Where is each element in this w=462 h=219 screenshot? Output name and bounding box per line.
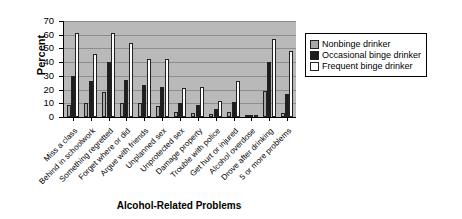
x-tick-mark xyxy=(73,117,74,121)
bar-group xyxy=(278,21,296,117)
bar xyxy=(227,112,231,117)
bar-group xyxy=(189,21,207,117)
y-tick-label: 70 xyxy=(43,17,54,25)
x-tick-mark xyxy=(126,117,127,121)
bar xyxy=(120,103,124,117)
bar xyxy=(107,62,111,117)
bar xyxy=(147,59,151,117)
bar xyxy=(236,81,240,117)
legend-label: Frequent binge drinker xyxy=(322,61,413,71)
bar-group xyxy=(100,21,118,117)
x-tick-mark xyxy=(91,117,92,121)
plot-area xyxy=(63,21,296,118)
bar xyxy=(111,33,115,117)
bar-group xyxy=(225,21,243,117)
y-tick-label: 50 xyxy=(43,44,54,52)
bar xyxy=(75,33,79,117)
legend-swatch-icon xyxy=(310,51,319,60)
bar xyxy=(209,114,213,117)
bar-group xyxy=(135,21,153,117)
bar-group xyxy=(242,21,260,117)
bar-group xyxy=(207,21,225,117)
bar xyxy=(174,112,178,117)
y-tick-label: 20 xyxy=(43,86,54,94)
bar xyxy=(67,105,71,117)
y-tick-label: 40 xyxy=(43,58,54,66)
legend-item: Nonbinge drinker xyxy=(310,39,421,49)
y-tick-label: 60 xyxy=(43,31,54,39)
bar xyxy=(272,39,276,117)
legend: Nonbinge drinkerOccasional binge drinker… xyxy=(305,33,427,77)
bar xyxy=(138,103,142,117)
bar xyxy=(178,103,182,117)
bar xyxy=(129,43,133,117)
bar xyxy=(267,62,271,117)
bar xyxy=(156,106,160,117)
bar xyxy=(165,59,169,117)
y-axis-ticks: 010203040506070 xyxy=(0,0,63,118)
y-tick-label: 10 xyxy=(43,99,54,107)
bar-chart-figure: Percent 010203040506070 Miss a classBehi… xyxy=(0,0,462,219)
x-axis-title: Alcohol-Related Problems xyxy=(63,200,295,211)
bar-group xyxy=(260,21,278,117)
legend-label: Nonbinge drinker xyxy=(322,39,391,49)
legend-swatch-icon xyxy=(310,40,319,49)
bar-group xyxy=(118,21,136,117)
bar xyxy=(254,115,258,117)
x-tick-mark xyxy=(234,117,235,121)
bar xyxy=(124,80,128,117)
bar xyxy=(89,81,93,117)
legend-item: Occasional binge drinker xyxy=(310,50,421,60)
bar xyxy=(71,76,75,117)
bar xyxy=(232,102,236,117)
bar xyxy=(263,91,267,117)
bar xyxy=(218,101,222,117)
x-tick-mark xyxy=(198,117,199,121)
y-tick-label: 0 xyxy=(49,113,54,121)
bar-group xyxy=(153,21,171,117)
bar xyxy=(200,87,204,117)
x-tick-mark xyxy=(180,117,181,121)
bar xyxy=(191,113,195,117)
y-tick-label: 30 xyxy=(43,72,54,80)
bar-group xyxy=(64,21,82,117)
bar xyxy=(214,109,218,117)
bar xyxy=(93,54,97,117)
legend-swatch-icon xyxy=(310,62,319,71)
legend-item: Frequent binge drinker xyxy=(310,61,421,71)
bar-groups xyxy=(64,21,296,117)
bar-group xyxy=(82,21,100,117)
x-tick-mark xyxy=(162,117,163,121)
bar xyxy=(196,105,200,117)
x-tick-mark xyxy=(269,117,270,121)
bar xyxy=(281,113,285,117)
bar xyxy=(285,94,289,117)
bar xyxy=(160,87,164,117)
bar xyxy=(289,51,293,117)
x-tick-mark xyxy=(287,117,288,121)
x-tick-mark xyxy=(216,117,217,121)
bar xyxy=(102,92,106,117)
bar xyxy=(182,88,186,117)
bar-group xyxy=(171,21,189,117)
legend-label: Occasional binge drinker xyxy=(322,50,421,60)
bar xyxy=(142,85,146,117)
x-tick-mark xyxy=(109,117,110,121)
x-tick-mark xyxy=(144,117,145,121)
x-tick-mark xyxy=(251,117,252,121)
bar xyxy=(84,103,88,117)
bar xyxy=(245,115,249,117)
